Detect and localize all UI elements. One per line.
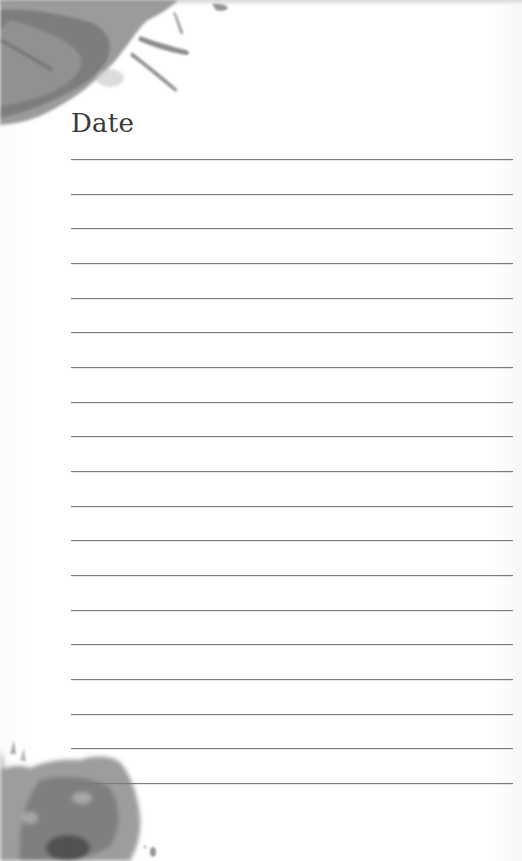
writing-line[interactable]	[71, 194, 513, 195]
writing-line[interactable]	[71, 748, 513, 749]
writing-line[interactable]	[71, 263, 513, 264]
writing-line[interactable]	[71, 783, 513, 784]
writing-line[interactable]	[71, 610, 513, 611]
writing-line[interactable]	[71, 332, 513, 333]
writing-line[interactable]	[71, 228, 513, 229]
writing-line[interactable]	[71, 159, 513, 160]
writing-line[interactable]	[71, 540, 513, 541]
writing-line[interactable]	[71, 644, 513, 645]
journal-page: Date	[0, 0, 522, 861]
writing-line[interactable]	[71, 402, 513, 403]
writing-line[interactable]	[71, 714, 513, 715]
writing-line[interactable]	[71, 679, 513, 680]
writing-line[interactable]	[71, 471, 513, 472]
writing-line[interactable]	[71, 436, 513, 437]
writing-lines	[71, 0, 513, 861]
writing-line[interactable]	[71, 298, 513, 299]
writing-line[interactable]	[71, 367, 513, 368]
writing-line[interactable]	[71, 575, 513, 576]
writing-line[interactable]	[71, 506, 513, 507]
